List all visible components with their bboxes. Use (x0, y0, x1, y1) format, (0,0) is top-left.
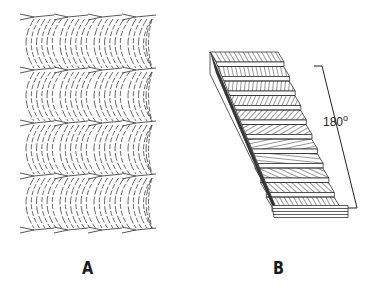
panel-label-b: B (273, 258, 284, 278)
rotation-angle-label: 180o (323, 113, 348, 129)
figure: 180o A B (0, 0, 378, 291)
panel-b-stair-diagram (0, 0, 378, 291)
panel-label-a: A (82, 258, 93, 278)
